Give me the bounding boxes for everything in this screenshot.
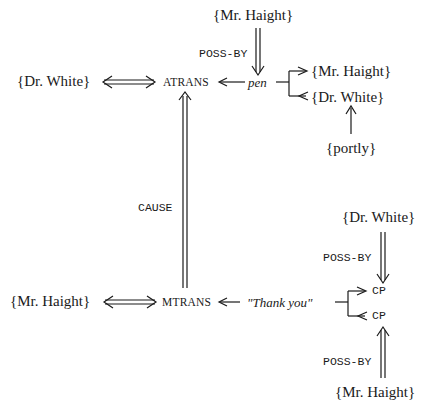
label-poss-by-cp-top: POSS-BY	[323, 252, 371, 264]
label-poss-by-top: POSS-BY	[199, 48, 247, 60]
node-cp-from: CP	[372, 310, 386, 322]
node-dr-white-source: {Dr. White}	[311, 90, 384, 105]
node-mr-haight-possessor: {Mr. Haight}	[213, 8, 293, 23]
label-cause: CAUSE	[138, 202, 173, 214]
primitive-mtrans: MTRANS	[162, 297, 211, 309]
node-mr-haight-recipient: {Mr. Haight}	[311, 64, 391, 79]
node-cp-to: CP	[372, 285, 386, 297]
primitive-atrans: ATRANS	[163, 77, 209, 89]
node-thank-you: "Thank you"	[247, 296, 312, 309]
node-portly: {portly}	[326, 141, 376, 156]
node-mr-haight-actor: {Mr. Haight}	[10, 294, 90, 309]
node-pen: pen	[248, 76, 267, 89]
label-poss-by-cp-bottom: POSS-BY	[323, 356, 371, 368]
diagram-arrows	[0, 0, 437, 409]
node-mr-haight-cp-possessor: {Mr. Haight}	[335, 385, 415, 400]
node-dr-white-actor: {Dr. White}	[17, 74, 90, 89]
node-dr-white-cp-possessor: {Dr. White}	[342, 210, 415, 225]
